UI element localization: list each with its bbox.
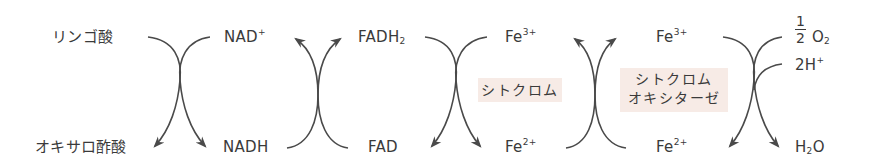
arrow-fad-to-fadh2 xyxy=(318,39,348,148)
arrow-fadh2-to-fad xyxy=(425,37,456,146)
cytochrome-enzyme-box: シトクロム xyxy=(478,78,562,102)
arrow-proton-join xyxy=(754,64,782,90)
fe2-label-a: Fe2+ xyxy=(505,138,537,156)
arrow-fe2-to-fe3-a xyxy=(566,39,595,148)
half-fraction: 1 2 xyxy=(795,14,806,45)
arrow-nadh-to-nad xyxy=(287,39,318,148)
cytochrome-oxidase-enzyme-box: シトクロム オキシターゼ xyxy=(620,68,728,112)
nadh-label: NADH xyxy=(223,138,269,156)
fad-label: FAD xyxy=(368,138,398,156)
arrow-malate-to-oxaloacetate xyxy=(148,37,180,146)
fe2-label-b: Fe2+ xyxy=(656,138,688,156)
fe3-label-b: Fe3+ xyxy=(656,28,688,46)
cytochrome-oxidase-line2: オキシターゼ xyxy=(620,89,728,108)
water-label: H2O xyxy=(795,138,825,156)
fadh2-label: FADH2 xyxy=(358,28,406,46)
oxygen-label: O2 xyxy=(812,28,830,46)
arrow-nad-to-nadh xyxy=(180,37,210,146)
arrow-oxygen-to-water xyxy=(754,37,782,146)
malate-label: リンゴ酸 xyxy=(52,28,113,46)
nad-plus-label: NAD+ xyxy=(224,28,266,46)
fe3-label-a: Fe3+ xyxy=(505,28,537,46)
cytochrome-oxidase-line1: シトクロム xyxy=(620,70,728,89)
proton-label: 2H+ xyxy=(795,56,824,74)
reaction-arrows xyxy=(0,0,873,166)
oxaloacetate-label: オキサロ酢酸 xyxy=(35,138,127,156)
